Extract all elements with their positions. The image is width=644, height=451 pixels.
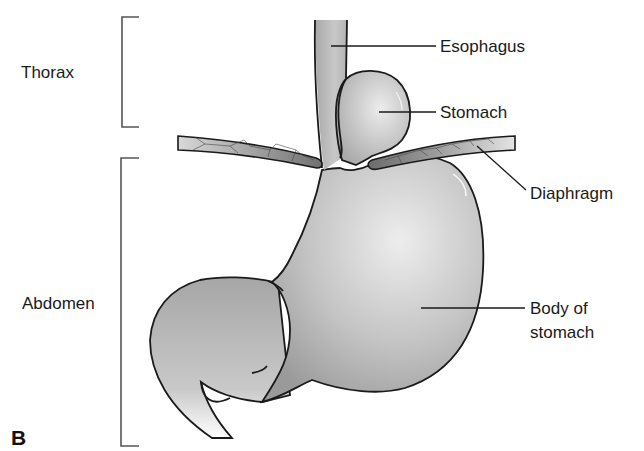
body-of-stomach-label-line1: Body of	[530, 299, 588, 318]
thorax-bracket	[122, 17, 139, 127]
hiatal-hernia-diagram: Thorax Abdomen Esophagus Stomach Diaphra…	[0, 0, 644, 451]
diaphragm-label: Diaphragm	[530, 184, 613, 203]
abdomen-label: Abdomen	[22, 294, 95, 313]
thorax-label: Thorax	[21, 63, 74, 82]
panel-label: B	[11, 426, 26, 449]
stomach-label: Stomach	[440, 103, 507, 122]
duodenum	[150, 277, 290, 438]
herniated-stomach	[336, 71, 410, 165]
abdomen-bracket	[121, 158, 139, 446]
diaphragm-left	[178, 136, 322, 168]
esophagus-label: Esophagus	[440, 37, 525, 56]
diaphragm-leader	[477, 146, 526, 190]
body-of-stomach-label-line2: stomach	[530, 323, 594, 342]
